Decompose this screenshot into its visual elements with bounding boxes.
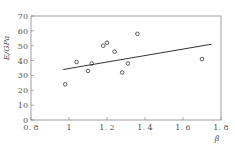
y-tick-label: 10 — [18, 101, 28, 110]
fit-line — [63, 44, 211, 69]
data-point — [86, 69, 90, 73]
y-tick-label: 30 — [18, 71, 28, 80]
plot-frame — [31, 16, 221, 120]
data-point — [120, 71, 124, 75]
x-axis-label: β — [214, 134, 220, 143]
data-point — [200, 57, 204, 61]
y-tick-label: 60 — [18, 27, 28, 36]
x-tick-label: 1. 6 — [175, 123, 190, 132]
data-point — [101, 44, 105, 48]
y-tick-label: 70 — [18, 12, 28, 21]
y-tick-label: 20 — [18, 86, 28, 95]
y-axis-label: E/GPa — [2, 35, 11, 61]
y-tick-label: 40 — [18, 57, 28, 66]
y-tick-label: 50 — [18, 42, 28, 51]
x-tick-label: 1. 4 — [137, 123, 152, 132]
plot-area: 0. 811. 21. 41. 61. 8010203040506070βE/G… — [2, 12, 229, 143]
data-point — [63, 83, 67, 87]
data-point — [105, 41, 109, 45]
data-point — [136, 32, 140, 36]
x-tick-label: 1. 2 — [99, 123, 114, 132]
data-point — [126, 62, 130, 66]
y-tick-label: 0 — [23, 116, 28, 125]
scatter-chart: 0. 811. 21. 41. 61. 8010203040506070βE/G… — [0, 0, 235, 150]
data-point — [75, 60, 79, 64]
data-point — [113, 50, 117, 54]
x-tick-label: 1 — [66, 123, 71, 132]
x-tick-label: 1. 8 — [213, 123, 228, 132]
